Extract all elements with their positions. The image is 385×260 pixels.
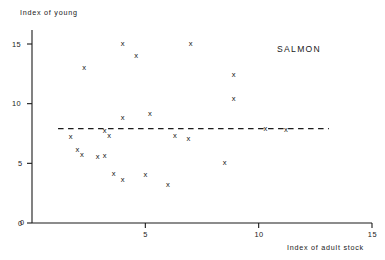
data-point-marker: x [80, 151, 84, 159]
y-tick-label: 15 [12, 40, 21, 49]
x-tick-label: 5 [143, 230, 148, 239]
data-point-marker: x [223, 160, 227, 168]
data-point-marker: x [173, 132, 177, 140]
data-point-marker: x [121, 40, 125, 48]
scatter-plot-figure: Index of young Index of adult stock SALM… [0, 0, 385, 260]
data-point-marker: x [143, 171, 147, 179]
x-axis-ticks [145, 223, 372, 228]
x-tick-label: 15 [368, 230, 377, 239]
y-tick-label: 10 [12, 99, 21, 108]
y-axis-ticks [27, 44, 32, 223]
data-point-marker: x [112, 170, 116, 178]
data-point-marker: x [103, 152, 107, 160]
y-axis-label: Index of young [20, 8, 78, 17]
data-point-marker: x [189, 40, 193, 48]
x-tick-label: 10 [254, 230, 263, 239]
y-tick-label: 5 [18, 159, 23, 168]
data-point-marker: x [134, 52, 138, 60]
data-point-marker: x [148, 111, 152, 119]
axes [32, 30, 372, 223]
data-point-marker: x [69, 133, 73, 141]
data-point-marker: x [284, 126, 288, 134]
data-point-marker: x [264, 125, 268, 133]
data-point-marker: x [82, 64, 86, 72]
data-point-marker: x [121, 114, 125, 122]
data-point-marker: x [96, 154, 100, 162]
data-point-marker: x [166, 181, 170, 189]
x-tick-label: 0 [20, 218, 25, 227]
data-point-marker: x [232, 71, 236, 79]
data-point-marker: x [75, 146, 79, 154]
data-point-marker: x [121, 176, 125, 184]
data-point-marker: x [103, 127, 107, 135]
data-point-marker: x [186, 136, 190, 144]
data-point-marker: x [107, 132, 111, 140]
x-axis-label: Index of adult stock [287, 243, 364, 252]
series-annotation-salmon: SALMON [277, 44, 321, 54]
data-point-marker: x [232, 95, 236, 103]
